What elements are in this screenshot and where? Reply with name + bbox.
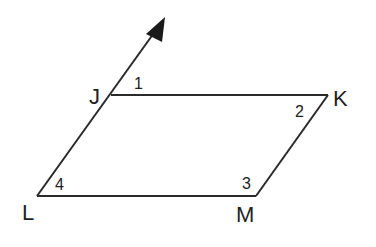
side-km xyxy=(256,95,328,196)
diagram-svg: J K L M 1 2 3 4 xyxy=(0,0,376,247)
arrowhead-icon xyxy=(146,17,165,42)
angle-label-1: 1 xyxy=(134,75,143,92)
angle-label-4: 4 xyxy=(55,176,64,193)
parallelogram-diagram: J K L M 1 2 3 4 xyxy=(0,0,376,247)
ray-lj xyxy=(37,30,156,196)
vertex-label-m: M xyxy=(236,202,254,227)
vertex-label-k: K xyxy=(333,86,348,111)
angle-label-3: 3 xyxy=(242,175,251,192)
vertex-label-l: L xyxy=(22,200,34,225)
vertex-label-j: J xyxy=(89,84,100,109)
angle-label-2: 2 xyxy=(295,103,304,120)
